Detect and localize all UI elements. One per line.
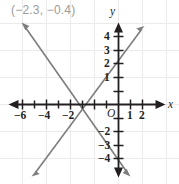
x-tick-label-neg2: −2 [62, 110, 74, 122]
y-tick-label-1: 1 [104, 72, 110, 84]
x-tick-label-1: 1 [127, 110, 133, 122]
y-tick-label-4: 4 [104, 31, 110, 43]
graph-canvas [0, 0, 179, 184]
y-tick-label-2: 2 [104, 58, 110, 70]
intersection-point-label: (−2.3, −0.4) [11, 4, 75, 16]
ascending-line [32, 26, 145, 177]
y-axis-label: y [110, 6, 115, 18]
y-tick-label-neg3: −3 [98, 140, 110, 152]
y-tick-label-3: 3 [104, 45, 110, 57]
x-tick-label-neg6: −6 [14, 110, 26, 122]
y-tick-label-neg4: −4 [98, 153, 110, 165]
y-tick-label-neg2: −2 [98, 126, 110, 138]
descending-line [22, 23, 131, 177]
x-tick-label-neg4: −4 [38, 110, 50, 122]
coordinate-plane-figure: (−2.3, −0.4) x y O −6 −4 −2 1 2 4 3 2 1 … [0, 0, 179, 184]
x-tick-label-2: 2 [139, 110, 145, 122]
x-axis [9, 100, 166, 110]
x-axis-label: x [168, 99, 173, 111]
origin-label: O [107, 108, 115, 120]
